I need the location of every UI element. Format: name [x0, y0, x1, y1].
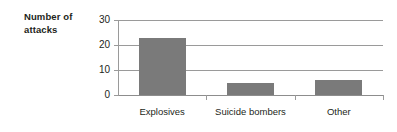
- x-axis-category-tick: [206, 95, 207, 100]
- x-axis-tick-labels: ExplosivesSuicide bombersOther: [118, 106, 383, 122]
- plot-area: [118, 20, 383, 95]
- bar: [227, 83, 274, 96]
- y-axis-title-line-2: attacks: [24, 24, 57, 35]
- y-axis-tick: [114, 70, 119, 71]
- x-axis-baseline: [118, 95, 383, 96]
- y-axis-tick-labels: 0102030: [84, 0, 110, 132]
- bar: [139, 38, 186, 96]
- y-axis-tick-label: 0: [84, 90, 110, 100]
- y-axis-title-line-1: Number of: [24, 11, 72, 22]
- y-axis-tick: [114, 95, 119, 96]
- x-axis-tick-label: Other: [295, 106, 383, 118]
- y-axis-tick: [114, 45, 119, 46]
- y-axis-tick-label: 30: [84, 15, 110, 25]
- y-axis-tick: [114, 20, 119, 21]
- y-axis-tick-label: 10: [84, 65, 110, 75]
- x-axis-tick-label: Suicide bombers: [206, 106, 294, 118]
- bar: [315, 80, 362, 95]
- x-axis-tick-label: Explosives: [118, 106, 206, 118]
- x-axis-end-tick: [383, 95, 384, 100]
- x-axis-category-tick: [295, 95, 296, 100]
- bar-chart: Number of attacks 0102030 ExplosivesSuic…: [0, 0, 397, 132]
- y-axis-tick-label: 20: [84, 40, 110, 50]
- gridline: [118, 20, 383, 21]
